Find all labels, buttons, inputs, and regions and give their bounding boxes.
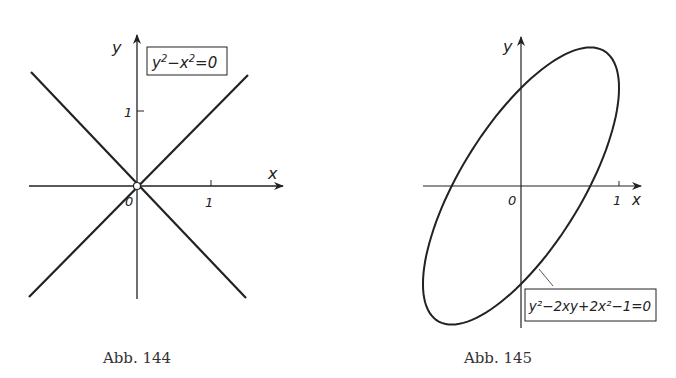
figure-page: y x 0 1 1 y2−x2=0 Abb. 144 y x 0 1 y²−2x… (0, 0, 676, 378)
y-axis-label: y (111, 38, 122, 57)
origin-point (134, 183, 141, 190)
figures-canvas: y x 0 1 1 y2−x2=0 Abb. 144 y x 0 1 y²−2x… (0, 0, 676, 378)
y-axis-label: y (502, 37, 513, 56)
caption-145: Abb. 145 (463, 349, 532, 367)
leader-line (539, 269, 553, 286)
equation-text: y²−2xy+2x²−1=0 (528, 298, 651, 314)
tick-y-label: 1 (124, 105, 132, 120)
equation-box: y2−x2=0 (147, 47, 227, 75)
figure-144: y x 0 1 1 y2−x2=0 Abb. 144 (29, 35, 283, 367)
equation-box: y²−2xy+2x²−1=0 (525, 289, 656, 321)
caption-144: Abb. 144 (102, 349, 171, 367)
figure-145: y x 0 1 y²−2xy+2x²−1=0 Abb. 145 (423, 37, 656, 367)
tick-x-label: 1 (613, 193, 621, 208)
origin-label: 0 (125, 194, 133, 209)
x-axis-label: x (267, 164, 278, 183)
tick-x-label: 1 (205, 195, 213, 210)
x-axis-label: x (631, 191, 641, 209)
origin-label: 0 (508, 193, 516, 208)
